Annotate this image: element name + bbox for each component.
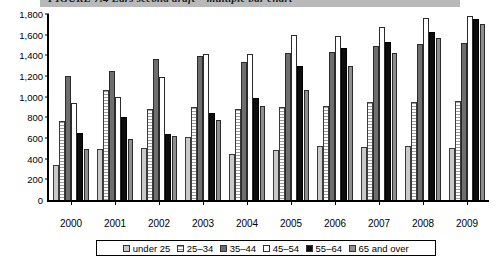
bar (203, 54, 208, 200)
x-axis-tick-label: 2002 (137, 218, 181, 229)
legend-label: 65 and over (359, 243, 409, 254)
bar (165, 134, 170, 200)
bar (172, 136, 177, 200)
bar (348, 66, 353, 200)
bar (247, 54, 252, 200)
bar (241, 62, 246, 200)
bar (436, 38, 441, 200)
bar (392, 53, 397, 200)
bar-group (401, 14, 445, 200)
legend-label: 55–64 (316, 243, 342, 254)
bar (141, 148, 146, 200)
bar-group (269, 14, 313, 200)
legend-swatch-icon (306, 245, 313, 252)
legend-item: under 25 (123, 243, 170, 254)
bar (317, 146, 322, 200)
figure-caption-text: FIGURE 7.4 Ears second draft – multiple … (48, 0, 292, 4)
bar (185, 137, 190, 200)
x-axis-tick-label: 2007 (357, 218, 401, 229)
legend-item: 65 and over (349, 243, 409, 254)
legend-item: 55–64 (306, 243, 342, 254)
bar (209, 113, 214, 200)
bar (461, 43, 466, 200)
bar (235, 109, 240, 200)
x-axis-tick-mark (467, 200, 468, 205)
bar (84, 149, 89, 200)
x-axis-tick-mark (423, 200, 424, 205)
bar (109, 71, 114, 200)
x-axis-tick-mark (115, 200, 116, 205)
x-axis-tick-mark (159, 200, 160, 205)
x-axis-tick-label: 2000 (49, 218, 93, 229)
bar (449, 148, 454, 200)
x-axis-tick-mark (247, 200, 248, 205)
bar (341, 48, 346, 200)
bar (291, 35, 296, 200)
bar (197, 56, 202, 200)
legend-label: under 25 (133, 243, 171, 254)
bar-group (137, 14, 181, 200)
bar (216, 120, 221, 200)
bar-group (313, 14, 357, 200)
legend-item: 25–34 (177, 243, 213, 254)
bar (480, 24, 485, 200)
bar (417, 44, 422, 200)
bar (335, 36, 340, 200)
legend-item: 35–44 (220, 243, 256, 254)
bar (103, 90, 108, 200)
bar (473, 19, 478, 200)
bar (285, 53, 290, 200)
bar (253, 98, 258, 200)
x-axis-tick-mark (71, 200, 72, 205)
bar (455, 101, 460, 200)
legend-swatch-icon (349, 245, 356, 252)
bar-group (93, 14, 137, 200)
bar-group (225, 14, 269, 200)
x-axis-tick-mark (335, 200, 336, 205)
x-axis-tick-mark (203, 200, 204, 205)
bar (304, 90, 309, 200)
bar (379, 27, 384, 200)
legend-swatch-icon (177, 245, 184, 252)
bar (115, 97, 120, 200)
bar (71, 103, 76, 200)
bar (361, 147, 366, 200)
x-axis-tick-label: 2001 (93, 218, 137, 229)
x-axis-tick-label: 2005 (269, 218, 313, 229)
bar-group (357, 14, 401, 200)
bar (329, 52, 334, 200)
bar (59, 121, 64, 200)
bar (121, 117, 126, 200)
chart-legend: under 2525–3435–4445–5455–6465 and over (96, 240, 436, 256)
x-axis-tick-label: 2004 (225, 218, 269, 229)
legend-label: 45–54 (273, 243, 299, 254)
bar (191, 107, 196, 200)
bar (65, 76, 70, 200)
bar (373, 46, 378, 200)
bar (97, 149, 102, 200)
legend-swatch-icon (263, 245, 270, 252)
bar (153, 59, 158, 200)
bar (229, 154, 234, 201)
x-axis-tick-label: 2008 (401, 218, 445, 229)
bar (385, 42, 390, 200)
bar (147, 109, 152, 200)
bar (405, 146, 410, 200)
bar (279, 107, 284, 200)
bar (323, 106, 328, 200)
bar (411, 102, 416, 200)
bar (159, 77, 164, 200)
bar (273, 150, 278, 200)
bar (467, 16, 472, 200)
bar (77, 133, 82, 200)
bar (260, 106, 265, 200)
bar-chart-plot-area: 1,8001,6001,4001,2001,0008006004002000 2… (47, 14, 489, 202)
bar (429, 32, 434, 200)
bar-group (181, 14, 225, 200)
y-axis-tick-label: 0 (38, 195, 49, 206)
bar (423, 18, 428, 200)
legend-swatch-icon (220, 245, 227, 252)
bar (367, 102, 372, 200)
x-axis-tick-mark (291, 200, 292, 205)
x-axis-tick-label: 2009 (445, 218, 489, 229)
